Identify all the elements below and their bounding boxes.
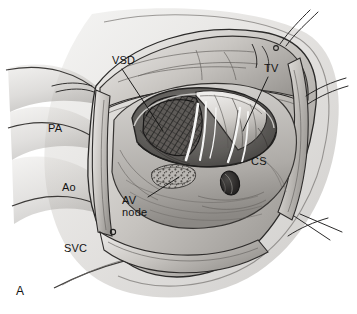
- illustration-canvas: [0, 0, 357, 314]
- label-vsd: VSD: [112, 55, 135, 67]
- label-av-node: AV node: [122, 195, 147, 218]
- label-cs: CS: [251, 156, 267, 168]
- label-ao: Ao: [62, 182, 76, 194]
- surgical-illustration-figure: VSD TV PA Ao SVC AV node CS A: [0, 0, 357, 314]
- label-svc: SVC: [64, 243, 87, 255]
- label-tv: TV: [264, 63, 278, 75]
- label-pa: PA: [48, 123, 62, 135]
- av-node-region: [152, 165, 196, 189]
- panel-letter: A: [16, 285, 24, 297]
